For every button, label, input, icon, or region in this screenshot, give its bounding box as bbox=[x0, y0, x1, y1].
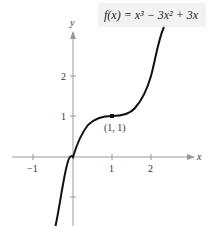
y-axis-label: y bbox=[69, 17, 75, 28]
tick-label-x-2: 2 bbox=[148, 163, 153, 174]
chart-plot: −1 1 2 1 2 x y (1, 1) bbox=[0, 0, 208, 229]
tick-label-x-1: 1 bbox=[109, 163, 114, 174]
tick-label-y-1: 1 bbox=[61, 111, 66, 122]
tick-label-x-neg1: −1 bbox=[27, 163, 38, 174]
point-marker bbox=[110, 114, 114, 118]
point-label: (1, 1) bbox=[104, 122, 126, 134]
x-axis-label: x bbox=[196, 151, 202, 162]
tick-label-y-2: 2 bbox=[61, 71, 66, 82]
